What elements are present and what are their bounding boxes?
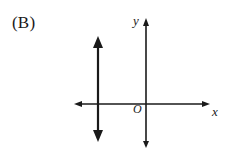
x-axis-left-arrowhead: [74, 101, 82, 107]
origin-label: O: [133, 102, 142, 117]
x-axis-right-arrowhead: [202, 101, 210, 107]
y-axis-bottom-arrowhead: [143, 141, 149, 148]
coordinate-plane-graphic: [0, 0, 226, 151]
plotted-line-top-arrowhead: [93, 36, 103, 48]
y-axis-top-arrowhead: [143, 18, 149, 26]
x-axis-label: x: [212, 104, 218, 120]
y-axis-label: y: [133, 13, 139, 29]
x-axis: [74, 101, 210, 107]
figure-container: (B) y x O: [0, 0, 226, 151]
plotted-line-bottom-arrowhead: [93, 130, 103, 142]
plotted-vertical-line: [93, 36, 103, 142]
y-axis: [143, 18, 149, 148]
